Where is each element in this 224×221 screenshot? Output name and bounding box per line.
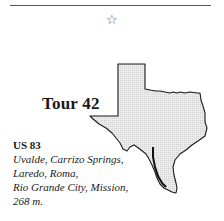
route-stops: Uvalde, Carrizo Springs, Laredo, Roma, R… (13, 152, 128, 208)
highway-label: US 83 (13, 139, 41, 151)
tour-title: Tour 42 (42, 94, 100, 114)
route-stops-line: Rio Grande City, Mission, (13, 180, 128, 194)
route-distance: 268 m. (13, 194, 128, 208)
route-stops-line: Uvalde, Carrizo Springs, (13, 152, 128, 166)
route-stops-line: Laredo, Roma, (13, 166, 128, 180)
